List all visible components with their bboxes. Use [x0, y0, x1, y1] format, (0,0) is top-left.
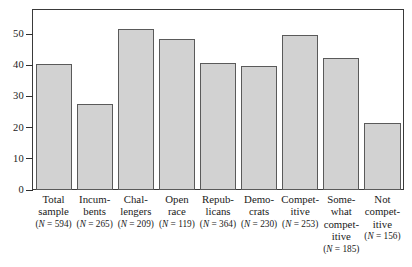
x-axis-category-label: Not compet- itive(N = 156) — [357, 193, 408, 242]
y-axis-tick-label: 50 — [2, 29, 24, 40]
category-name: Not compet- itive — [357, 193, 408, 230]
y-axis-tick-label: 40 — [2, 60, 24, 71]
bar — [282, 35, 318, 190]
y-axis-tick — [26, 190, 33, 191]
bar — [323, 58, 359, 190]
bar — [36, 64, 72, 190]
y-axis-tick-label: 10 — [2, 154, 24, 165]
bar — [159, 39, 195, 190]
y-axis-tick — [26, 34, 33, 35]
bar-chart: 01020304050 Total sample(N = 594)Incum- … — [0, 0, 412, 267]
y-axis-tick — [26, 96, 33, 97]
y-axis-tick-label: 30 — [2, 91, 24, 102]
bars-layer — [33, 10, 403, 190]
bar — [364, 123, 400, 190]
y-axis: 01020304050 — [0, 0, 24, 200]
bar — [200, 63, 236, 190]
category-sample-size: (N = 185) — [316, 243, 367, 255]
y-axis-tick-label: 20 — [2, 123, 24, 134]
y-axis-tick — [26, 65, 33, 66]
y-axis-tick-label: 0 — [2, 185, 24, 196]
bar — [118, 29, 154, 190]
y-axis-tick — [26, 158, 33, 159]
category-sample-size: (N = 156) — [357, 230, 408, 242]
bar — [77, 104, 113, 190]
x-axis-labels: Total sample(N = 594)Incum- bents(N = 26… — [33, 193, 403, 267]
y-axis-tick — [26, 127, 33, 128]
bar — [241, 66, 277, 190]
